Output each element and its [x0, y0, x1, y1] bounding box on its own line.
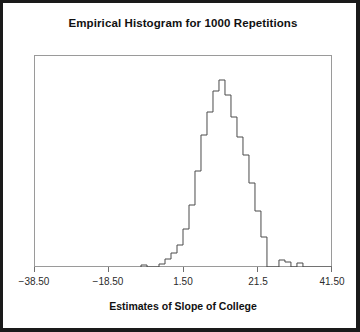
x-tick-label: 21.5 — [228, 276, 288, 287]
x-tick-mark — [34, 267, 35, 272]
x-tick-mark — [331, 267, 332, 272]
histogram-outline — [34, 55, 332, 267]
x-tick-label: 41.50 — [302, 276, 360, 287]
x-tick-label: −38.50 — [4, 276, 64, 287]
x-tick-mark — [257, 267, 258, 272]
plot-area — [34, 55, 332, 267]
x-tick-label: −18.50 — [78, 276, 138, 287]
chart-title: Empirical Histogram for 1000 Repetitions — [3, 17, 360, 29]
figure-container: Empirical Histogram for 1000 Repetitions… — [0, 0, 360, 332]
x-tick-label: 1.50 — [153, 276, 213, 287]
x-tick-mark — [108, 267, 109, 272]
x-axis-title: Estimates of Slope of College — [3, 300, 360, 312]
x-tick-mark — [183, 267, 184, 272]
